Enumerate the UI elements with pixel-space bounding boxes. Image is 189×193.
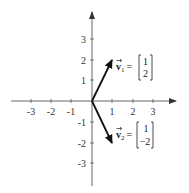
- matrix-entry: −2: [140, 136, 151, 147]
- y-tick-label: -2: [78, 138, 86, 149]
- x-tick-label: -2: [47, 106, 55, 117]
- y-tick-label: 1: [81, 75, 86, 86]
- vector-v2-label: v2= 1 −2: [116, 122, 153, 148]
- equals-sign: =: [127, 61, 133, 72]
- vector-v1: [92, 60, 112, 101]
- y-tick-label: 2: [81, 55, 86, 66]
- matrix-entry: 2: [143, 68, 148, 79]
- svg-text:v2=: v2=: [116, 129, 133, 142]
- x-tick-label: 1: [110, 106, 115, 117]
- equals-sign: =: [127, 129, 133, 140]
- x-tick-label: 3: [151, 106, 156, 117]
- x-tick-labels: -3 -2 -1 1 2 3: [27, 106, 156, 117]
- right-bracket-icon: [151, 122, 153, 148]
- vector-diagram: -3 -2 -1 1 2 3 3 2 1 -1 -2 -3 v1= 1 2 v2…: [0, 0, 189, 193]
- left-bracket-icon: [139, 55, 141, 80]
- right-bracket-icon: [150, 55, 152, 80]
- x-tick-label: -1: [67, 106, 75, 117]
- y-tick-label: 3: [81, 34, 86, 45]
- matrix-entry: 1: [143, 56, 148, 67]
- y-tick-label: -3: [78, 158, 86, 169]
- vector-subscript: 1: [121, 66, 125, 74]
- vector-subscript: 2: [121, 134, 125, 142]
- x-tick-label: -3: [27, 106, 35, 117]
- x-tick-label: 2: [131, 106, 136, 117]
- svg-text:v1=: v1=: [116, 61, 133, 74]
- matrix-entry: 1: [144, 123, 149, 134]
- y-tick-label: -1: [78, 117, 86, 128]
- vector-v1-label: v1= 1 2: [116, 55, 152, 80]
